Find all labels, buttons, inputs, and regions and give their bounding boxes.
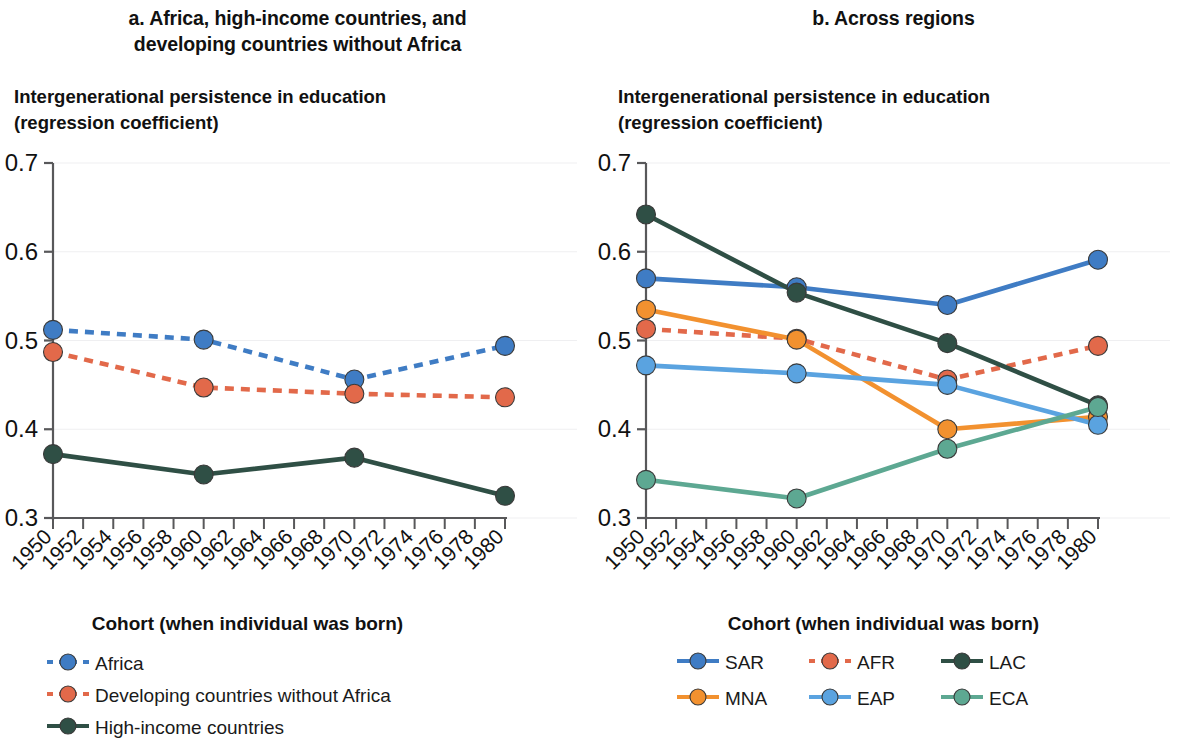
data-point-marker — [345, 384, 364, 403]
legend-item-label: SAR — [725, 652, 764, 674]
panel-a: a. Africa, high-income countries, and de… — [0, 0, 595, 742]
data-point-marker — [496, 388, 515, 407]
data-point-marker — [637, 319, 656, 338]
data-point-marker — [637, 300, 656, 319]
legend-row: High-income countries — [46, 712, 409, 742]
data-point-marker — [44, 445, 63, 464]
panel-b: b. Across regions Intergenerational pers… — [596, 0, 1191, 742]
data-point-marker — [44, 320, 63, 339]
data-point-marker — [345, 448, 364, 467]
data-point-marker — [1089, 415, 1108, 434]
legend-swatch — [940, 651, 984, 676]
legend-item-developing-countries-without-africa[interactable]: Developing countries without Africa — [46, 684, 391, 709]
panel-b-legend: SARAFRLACMNAEAPECA — [676, 645, 1136, 717]
y-axis-tick-label: 0.3 — [5, 504, 38, 531]
y-axis-tick-label: 0.4 — [5, 415, 38, 442]
data-point-marker — [44, 343, 63, 362]
y-axis-tick-label: 0.6 — [598, 238, 631, 265]
legend-row: Developing countries without Africa — [46, 680, 409, 712]
data-point-marker — [787, 364, 806, 383]
data-point-marker — [1089, 336, 1108, 355]
legend-item-lac[interactable]: LAC — [940, 651, 1072, 676]
legend-row: Africa — [46, 648, 409, 680]
series-line-high-income-countries — [53, 454, 505, 496]
data-point-marker — [938, 375, 957, 394]
legend-item-label: Developing countries without Africa — [95, 685, 391, 707]
legend-item-label: AFR — [857, 652, 895, 674]
legend-item-label: Africa — [95, 653, 144, 675]
legend-swatch — [46, 652, 90, 677]
legend-item-afr[interactable]: AFR — [808, 651, 940, 676]
figure-container: a. Africa, high-income countries, and de… — [0, 0, 1191, 742]
data-point-marker — [637, 205, 656, 224]
series-line-afr — [646, 329, 1098, 380]
legend-swatch — [808, 651, 852, 676]
legend-row: SARAFRLAC — [676, 645, 1136, 681]
panel-a-x-axis-title: Cohort (when individual was born) — [0, 613, 595, 635]
legend-item-eap[interactable]: EAP — [808, 687, 940, 712]
data-point-marker — [938, 420, 957, 439]
data-point-marker — [787, 489, 806, 508]
data-point-marker — [938, 439, 957, 458]
legend-item-mna[interactable]: MNA — [676, 687, 808, 712]
data-point-marker — [194, 465, 213, 484]
legend-item-label: LAC — [989, 652, 1026, 674]
legend-item-label: EAP — [857, 688, 895, 710]
series-line-lac — [646, 214, 1098, 405]
y-axis-tick-label: 0.3 — [598, 504, 631, 531]
legend-item-africa[interactable]: Africa — [46, 652, 144, 677]
legend-swatch — [940, 687, 984, 712]
y-axis-tick-label: 0.7 — [5, 149, 38, 176]
panel-b-x-axis-title: Cohort (when individual was born) — [596, 613, 1191, 635]
y-axis-tick-label: 0.5 — [5, 327, 38, 354]
data-point-marker — [194, 330, 213, 349]
y-axis-tick-label: 0.7 — [598, 149, 631, 176]
data-point-marker — [787, 283, 806, 302]
legend-swatch — [46, 716, 90, 741]
data-point-marker — [637, 470, 656, 489]
data-point-marker — [637, 356, 656, 375]
series-line-africa — [53, 330, 505, 380]
data-point-marker — [1089, 398, 1108, 417]
data-point-marker — [1089, 250, 1108, 269]
legend-swatch — [46, 684, 90, 709]
legend-item-label: High-income countries — [95, 717, 284, 739]
legend-swatch — [808, 687, 852, 712]
series-line-sar — [646, 260, 1098, 305]
y-axis-tick-label: 0.6 — [5, 238, 38, 265]
legend-swatch — [676, 651, 720, 676]
series-line-eap — [646, 365, 1098, 424]
legend-item-sar[interactable]: SAR — [676, 651, 808, 676]
legend-swatch — [676, 687, 720, 712]
y-axis-tick-label: 0.5 — [598, 327, 631, 354]
data-point-marker — [787, 330, 806, 349]
legend-item-label: ECA — [989, 688, 1028, 710]
legend-row: MNAEAPECA — [676, 681, 1136, 717]
legend-item-label: MNA — [725, 688, 767, 710]
y-axis-tick-label: 0.4 — [598, 415, 631, 442]
legend-item-high-income-countries[interactable]: High-income countries — [46, 716, 284, 741]
data-point-marker — [938, 296, 957, 315]
data-point-marker — [496, 486, 515, 505]
legend-item-eca[interactable]: ECA — [940, 687, 1072, 712]
data-point-marker — [496, 336, 515, 355]
data-point-marker — [637, 269, 656, 288]
data-point-marker — [938, 334, 957, 353]
panel-a-legend: AfricaDeveloping countries without Afric… — [46, 648, 409, 742]
data-point-marker — [194, 378, 213, 397]
